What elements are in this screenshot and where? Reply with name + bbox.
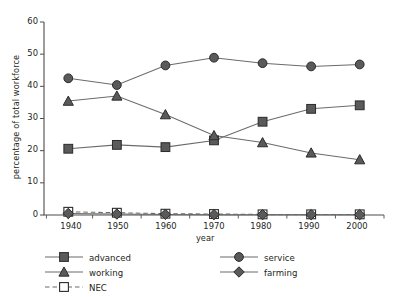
y-tick-60: 60 <box>16 16 38 26</box>
x-tick-2000: 2000 <box>337 221 377 231</box>
point-service-1990 <box>307 62 316 71</box>
legend-marker-service <box>235 253 244 262</box>
point-working-1970 <box>209 130 219 139</box>
plot-area <box>0 0 396 297</box>
x-tick-1990: 1990 <box>289 221 329 231</box>
x-axis-label: year <box>196 233 214 243</box>
y-tick-40: 40 <box>16 80 38 90</box>
point-service-1970 <box>210 53 219 62</box>
data-series <box>63 53 365 220</box>
point-service-1960 <box>161 61 170 70</box>
point-advanced-1960 <box>161 143 170 152</box>
point-service-1940 <box>64 74 73 83</box>
axes-lines <box>40 22 384 219</box>
point-working-1960 <box>160 110 170 119</box>
point-service-1980 <box>258 59 267 68</box>
point-working-1950 <box>112 91 122 100</box>
y-tick-20: 20 <box>16 144 38 154</box>
legend-marker-advanced <box>60 253 69 262</box>
point-advanced-1990 <box>307 104 316 113</box>
chart-figure: percentage of total workforce year 60 50… <box>0 0 396 297</box>
legend-markers <box>45 253 258 292</box>
y-tick-50: 50 <box>16 48 38 58</box>
point-service-1950 <box>112 81 121 90</box>
point-advanced-1980 <box>258 117 267 126</box>
y-tick-30: 30 <box>16 112 38 122</box>
axis-spine <box>44 22 384 215</box>
point-advanced-1940 <box>64 144 73 153</box>
point-advanced-1950 <box>112 140 121 149</box>
x-tick-1950: 1950 <box>98 221 138 231</box>
legend-marker-NEC <box>60 283 69 292</box>
x-tick-1970: 1970 <box>194 221 234 231</box>
x-tick-1980: 1980 <box>241 221 281 231</box>
point-service-2000 <box>355 60 364 69</box>
y-tick-10: 10 <box>16 176 38 186</box>
y-tick-0: 0 <box>16 209 38 219</box>
point-advanced-2000 <box>355 101 364 110</box>
x-tick-1960: 1960 <box>146 221 186 231</box>
legend-marker-farming <box>234 267 244 277</box>
x-tick-1940: 1940 <box>51 221 91 231</box>
